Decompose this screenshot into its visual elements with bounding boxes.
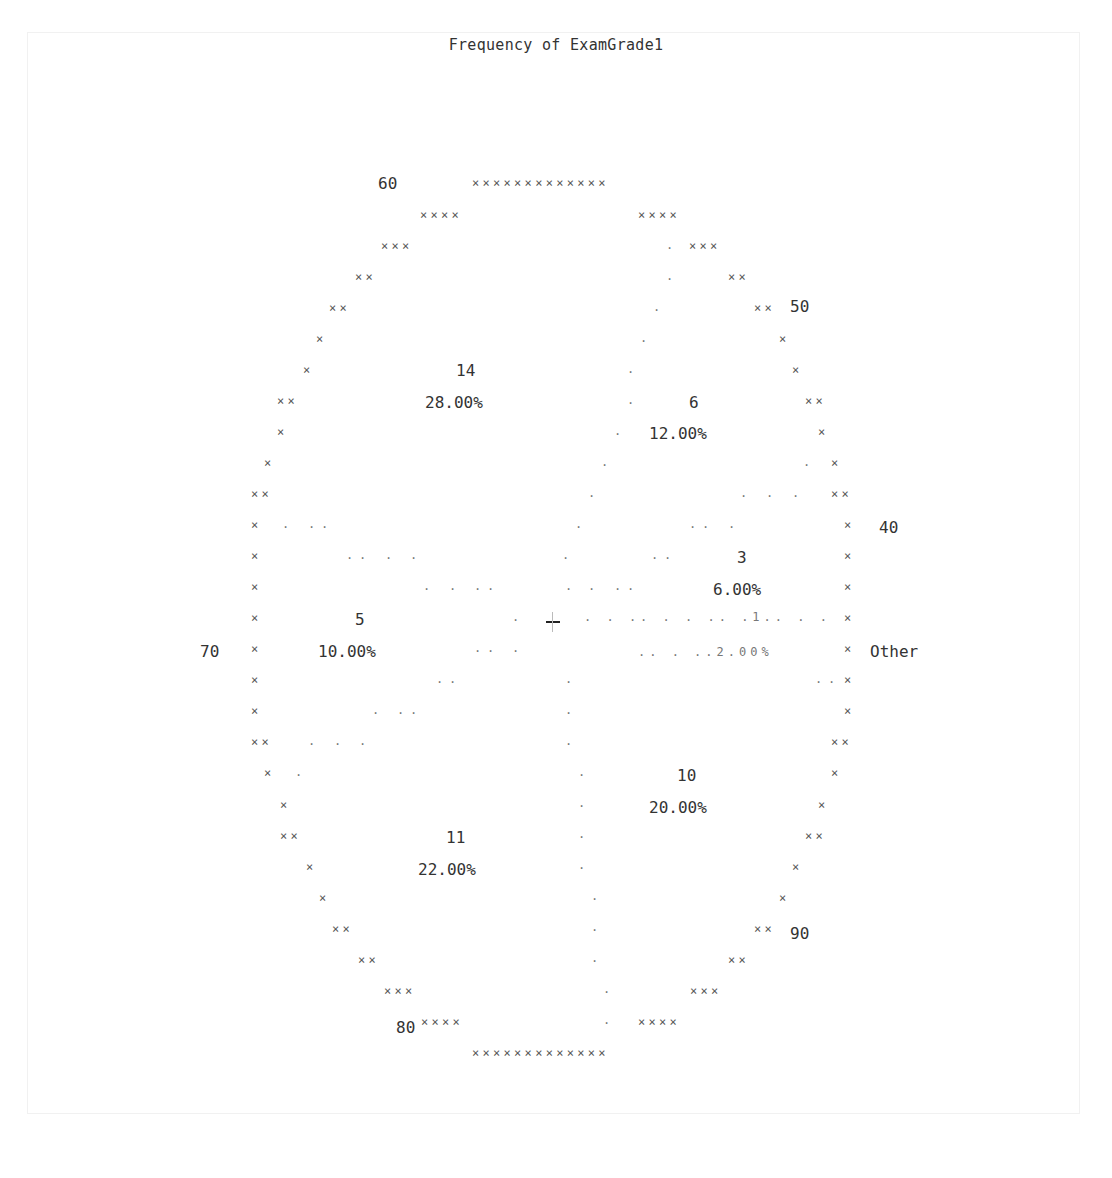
pie-outline: ×× [805, 827, 826, 845]
pie-outline: × [831, 764, 842, 782]
slice-divider: . [792, 484, 803, 502]
pie-outline: × [818, 796, 829, 814]
pie-outline: × [844, 516, 855, 534]
pie-outline: × [303, 361, 314, 379]
pie-outline: × [264, 764, 275, 782]
slice-divider: . [815, 670, 826, 688]
slice-divider: . [627, 577, 638, 595]
slice-count-70: 5 [355, 611, 365, 629]
slice-divider: . [666, 267, 677, 285]
pie-outline: × [251, 671, 262, 689]
slice-percent-50: 12.00% [649, 425, 707, 443]
slice-divider: . [614, 577, 625, 595]
pie-outline: ×××× [421, 1013, 463, 1031]
slice-divider: . [588, 484, 599, 502]
category-label-70: 70 [200, 643, 219, 661]
pie-outline: × [844, 671, 855, 689]
slice-divider: . [689, 515, 700, 533]
slice-divider: . [766, 484, 777, 502]
slice-divider: . [728, 515, 739, 533]
slice-count-90: 10 [677, 767, 696, 785]
slice-divider: . [578, 794, 589, 812]
category-label-60: 60 [378, 175, 397, 193]
slice-divider: . [578, 763, 589, 781]
pie-outline: ××× [690, 982, 722, 1000]
slice-divider: . [588, 577, 599, 595]
pie-outline: × [792, 361, 803, 379]
slice-percent-90: 20.00% [649, 799, 707, 817]
pie-outline: × [779, 889, 790, 907]
category-label-other: Other [870, 643, 918, 661]
pie-outline: ××× [689, 237, 721, 255]
slice-percent-40: 6.00% [713, 581, 761, 599]
pie-outline: × [831, 454, 842, 472]
slice-divider: . [321, 515, 332, 533]
pie-outline: ××× [384, 982, 416, 1000]
pie-outline: ×× [805, 392, 826, 410]
slice-divider: . [359, 732, 370, 750]
pie-center-mark [546, 612, 560, 632]
slice-divider: . [436, 670, 447, 688]
pie-outline: × [251, 547, 262, 565]
slice-divider: . [591, 949, 602, 967]
category-label-80: 80 [396, 1019, 415, 1037]
pie-outline: ×× [754, 920, 775, 938]
pie-outline: × [264, 454, 275, 472]
slice-divider: . [449, 670, 460, 688]
pie-outline: ×× [280, 827, 301, 845]
pie-outline: ×× [332, 920, 353, 938]
pie-outline: ×× [728, 268, 749, 286]
slice-divider: . [474, 577, 485, 595]
slice-divider: . [601, 453, 612, 471]
slice-divider: . . .. . . .. .1.. . . [584, 608, 831, 626]
pie-outline: × [251, 702, 262, 720]
pie-outline: ××××××××××××× [472, 174, 609, 192]
pie-outline: × [251, 516, 262, 534]
slice-divider: . [578, 825, 589, 843]
slice-divider: . [651, 546, 662, 564]
pie-outline: × [844, 702, 855, 720]
slice-divider: . [397, 701, 408, 719]
pie-outline: ×× [251, 733, 272, 751]
slice-divider: . [512, 639, 523, 657]
slice-divider: . [512, 608, 523, 626]
slice-divider: . [702, 515, 713, 533]
pie-outline: ×× [329, 299, 350, 317]
pie-outline: ×× [251, 485, 272, 503]
slice-divider: . [603, 980, 614, 998]
slice-count-80: 11 [446, 829, 465, 847]
pie-outline: ×××× [638, 206, 680, 224]
slice-divider: . [385, 546, 396, 564]
slice-divider: . [334, 732, 345, 750]
slice-divider: . [372, 701, 383, 719]
category-label-90: 90 [790, 925, 809, 943]
slice-divider: . [565, 732, 576, 750]
pie-outline: ×××× [638, 1013, 680, 1031]
slice-divider: . [614, 422, 625, 440]
slice-divider: . [487, 639, 498, 657]
slice-percent-80: 22.00% [418, 861, 476, 879]
pie-outline: × [316, 330, 327, 348]
slice-count-60: 14 [456, 362, 475, 380]
slice-divider: . [578, 856, 589, 874]
pie-outline: × [251, 578, 262, 596]
pie-outline: × [844, 609, 855, 627]
slice-divider: . [562, 546, 573, 564]
slice-percent-70: 10.00% [318, 643, 376, 661]
pie-outline: ×× [831, 733, 852, 751]
slice-divider: . [640, 329, 651, 347]
slice-divider: . [487, 577, 498, 595]
slice-count-40: 3 [737, 549, 747, 567]
slice-divider: . [423, 577, 434, 595]
pie-outline: ××××××××××××× [472, 1044, 609, 1062]
pie-outline: × [792, 858, 803, 876]
chart-title: Frequency of ExamGrade1 [0, 36, 1112, 54]
slice-divider: . [359, 546, 370, 564]
pie-outline: × [277, 423, 288, 441]
category-label-40: 40 [879, 519, 898, 537]
slice-divider: . [653, 298, 664, 316]
slice-divider: . [346, 546, 357, 564]
pie-outline: × [280, 796, 291, 814]
pie-outline: ×× [728, 951, 749, 969]
pie-outline: × [319, 889, 330, 907]
